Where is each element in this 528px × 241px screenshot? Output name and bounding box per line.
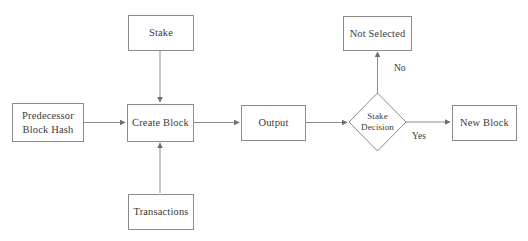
- node-output-label: Output: [258, 116, 288, 130]
- node-not-selected[interactable]: Not Selected: [343, 16, 412, 51]
- node-stake-label: Stake: [149, 26, 173, 40]
- edge-label-yes: Yes: [412, 131, 426, 142]
- stake-decision-diamond: [349, 93, 406, 151]
- flowchart-canvas: Predecessor Block Hash Stake Create Bloc…: [0, 0, 528, 241]
- node-create-block[interactable]: Create Block: [127, 104, 194, 142]
- node-transactions-label: Transactions: [133, 205, 188, 219]
- node-create-block-label: Create Block: [132, 116, 189, 130]
- node-new-block[interactable]: New Block: [452, 105, 517, 141]
- node-not-selected-label: Not Selected: [350, 27, 406, 41]
- node-predecessor-block-hash-label-line1: Predecessor: [22, 109, 74, 123]
- edge-label-no: No: [394, 63, 406, 74]
- node-predecessor-block-hash[interactable]: Predecessor Block Hash: [12, 103, 84, 142]
- node-stake[interactable]: Stake: [128, 15, 194, 51]
- node-output[interactable]: Output: [241, 105, 306, 141]
- node-new-block-label: New Block: [460, 116, 509, 130]
- node-predecessor-block-hash-label-line2: Block Hash: [23, 123, 74, 137]
- node-transactions[interactable]: Transactions: [128, 194, 194, 230]
